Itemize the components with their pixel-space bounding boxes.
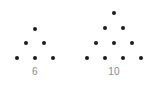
count-label-right: 10 bbox=[79, 67, 149, 77]
dot bbox=[130, 41, 134, 45]
dot bbox=[139, 56, 143, 60]
dot bbox=[85, 56, 89, 60]
triangular-numbers-figure: 6 10 bbox=[0, 0, 160, 88]
dot bbox=[103, 56, 107, 60]
dot bbox=[112, 41, 116, 45]
dot bbox=[103, 26, 107, 30]
count-label-left: 6 bbox=[0, 67, 70, 77]
dot bbox=[121, 56, 125, 60]
dot bbox=[94, 41, 98, 45]
dot bbox=[121, 26, 125, 30]
dot bbox=[112, 11, 116, 15]
